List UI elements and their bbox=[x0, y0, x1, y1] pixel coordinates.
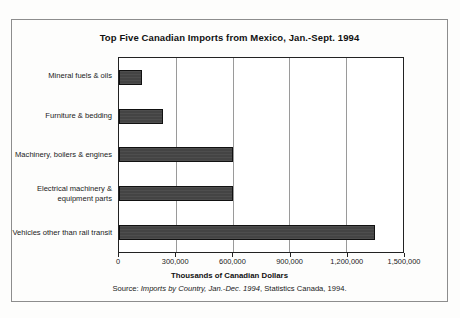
bar-row bbox=[119, 97, 403, 136]
bar-series bbox=[119, 58, 403, 252]
category-axis-labels: Mineral fuels & oils Furniture & bedding… bbox=[12, 57, 116, 253]
category-label: Electrical machinery & equipment parts bbox=[12, 175, 116, 214]
bar bbox=[119, 147, 233, 162]
source-prefix: Source: bbox=[112, 284, 140, 293]
bar-row bbox=[119, 58, 403, 97]
bar bbox=[119, 70, 142, 85]
x-tick-label: 0 bbox=[116, 257, 120, 266]
chart-title: Top Five Canadian Imports from Mexico, J… bbox=[12, 32, 447, 43]
category-label: Furniture & bedding bbox=[12, 96, 116, 135]
bar-row bbox=[119, 213, 403, 252]
source-publication-title: Imports by Country, Jan.-Dec. 1994 bbox=[141, 284, 260, 293]
x-tick-label: 600,000 bbox=[219, 257, 246, 266]
plot-area bbox=[118, 57, 404, 253]
x-axis-title: Thousands of Canadian Dollars bbox=[12, 271, 447, 280]
bar bbox=[119, 186, 233, 201]
x-tick-label: 1,500,000 bbox=[388, 257, 421, 266]
category-label: Vehicles other than rail transit bbox=[12, 214, 116, 253]
x-tick-label: 300,000 bbox=[162, 257, 189, 266]
bar-row bbox=[119, 174, 403, 213]
bar-row bbox=[119, 136, 403, 175]
x-tick-label: 900,000 bbox=[276, 257, 303, 266]
source-note: Source: Imports by Country, Jan.-Dec. 19… bbox=[12, 284, 447, 293]
category-label: Machinery, boilers & engines bbox=[12, 135, 116, 174]
bar bbox=[119, 225, 375, 240]
source-suffix: , Statistics Canada, 1994. bbox=[260, 284, 347, 293]
figure-frame: Top Five Canadian Imports from Mexico, J… bbox=[11, 19, 448, 302]
x-tick-label: 1,200,000 bbox=[330, 257, 363, 266]
x-axis-ticks: 0300,000600,000900,0001,200,0001,500,000 bbox=[118, 253, 404, 267]
bar bbox=[119, 109, 163, 124]
category-label: Mineral fuels & oils bbox=[12, 57, 116, 96]
